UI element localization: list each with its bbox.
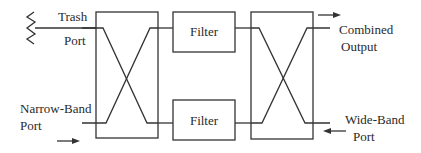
diagram-svg: Trash Port Narrow-Band Port Filter Filte…: [0, 0, 421, 153]
arrow-right-icon: [333, 12, 341, 18]
combined-output-label-line1: Combined: [339, 22, 394, 37]
arrow-left-icon: [323, 128, 331, 134]
hybrid-right-cross-1: [251, 28, 330, 123]
trash-port-label-line1: Trash: [58, 9, 88, 24]
arrow-right-icon: [72, 138, 80, 144]
wide-band-label-line2: Port: [353, 129, 375, 144]
hybrid-right-cross-2: [251, 28, 330, 123]
filter-bottom-label: Filter: [190, 113, 219, 128]
hybrid-left-cross-2: [82, 28, 158, 123]
narrow-band-label-line2: Port: [20, 118, 42, 133]
filter-top-label: Filter: [190, 24, 219, 39]
resistor-termination-icon: [27, 12, 35, 44]
trash-port-label-line2: Port: [64, 33, 86, 48]
hybrid-left-cross-1: [82, 28, 158, 123]
narrow-band-label-line1: Narrow-Band: [20, 101, 92, 116]
combined-output-label-line2: Output: [341, 39, 378, 54]
wide-band-label-line1: Wide-Band: [345, 112, 405, 127]
filter-multiplexer-diagram: Trash Port Narrow-Band Port Filter Filte…: [0, 0, 421, 153]
